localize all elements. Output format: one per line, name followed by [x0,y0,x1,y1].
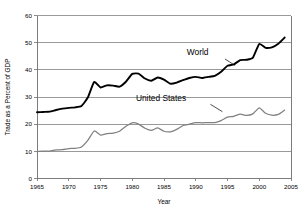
y-tick-label-0: 0 [29,175,33,182]
x-tick-label-1975: 1975 [94,183,108,190]
x-tick-label-2005: 2005 [284,183,298,190]
y-tick-label-30: 30 [25,93,32,100]
y-tick-label-60: 60 [25,12,32,19]
series-line-united-states [37,108,285,152]
y-axis-tick-labels: 0102030405060 [25,12,32,182]
y-tick-label-20: 20 [25,120,32,127]
y-axis-title: Trade as a Percent of GDP [4,59,11,136]
x-tick-label-1965: 1965 [30,183,44,190]
x-tick-label-1980: 1980 [125,183,139,190]
x-axis-tick-labels: 196519701975198019851990199520002005 [30,183,298,190]
x-tick-label-1990: 1990 [189,183,203,190]
x-tick-label-1995: 1995 [221,183,235,190]
series-label-world: World [187,47,209,57]
y-tick-label-40: 40 [25,66,32,73]
trade-gdp-line-chart: 0102030405060 19651970197519801985199019… [0,0,308,217]
series-label-united-states: United States [136,93,186,103]
x-tick-label-1985: 1985 [157,183,171,190]
x-tick-label-1970: 1970 [62,183,76,190]
x-tick-label-2000: 2000 [252,183,266,190]
x-axis-title: Year [158,198,172,205]
leader-line-1 [210,104,222,111]
y-tick-label-10: 10 [25,148,32,155]
chart-canvas: 0102030405060 19651970197519801985199019… [0,0,308,217]
y-tick-label-50: 50 [25,39,32,46]
